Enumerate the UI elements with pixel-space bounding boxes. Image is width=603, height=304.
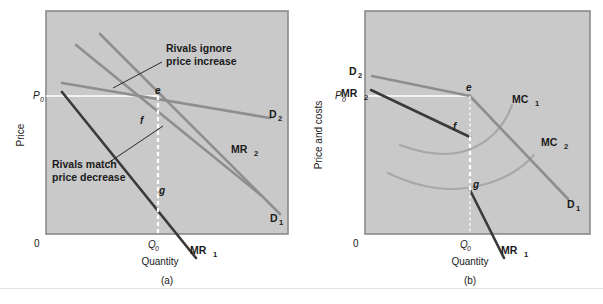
panel-b-label-d2: D 2	[349, 65, 362, 80]
figure-root: Price P 0 0 Q 0 Quantity e f g D 2	[0, 0, 603, 304]
panel-b-label-d1-base: D	[567, 198, 575, 210]
panel-a-caption: (a)	[161, 275, 173, 286]
panel-a-label-d1-base: D	[270, 212, 278, 224]
panel-a-y-tick-sub: 0	[40, 96, 44, 103]
panel-b-label-mr1-base: MR	[501, 244, 518, 256]
panel-b-label-mc2-base: MC	[541, 136, 558, 148]
panel-b-label-d2-sub: 2	[358, 71, 362, 80]
panel-a-label-d2-sub: 2	[278, 114, 282, 123]
bottom-divider	[0, 288, 603, 289]
panel-b-label-mc1-sub: 1	[535, 99, 539, 108]
panel-b-label-mr2-sub: 2	[364, 93, 368, 102]
panel-b-label-d1-sub: 1	[576, 204, 580, 213]
panel-b-point-g: g	[472, 179, 479, 190]
panel-a-x-tick-q0: Q 0	[148, 239, 159, 252]
panel-a-annot-ignore-line2: price increase	[166, 55, 237, 67]
panel-a-label-mr1-base: MR	[190, 244, 207, 256]
panel-b-label-mc1-base: MC	[512, 93, 529, 105]
panel-a-label-mr2-base: MR	[231, 143, 248, 155]
panel-b-label-mc2-sub: 2	[564, 142, 568, 151]
figure-svg: Price P 0 0 Q 0 Quantity e f g D 2	[0, 0, 603, 304]
panel-a-label-mr1-sub: 1	[213, 250, 217, 259]
panel-a-y-axis-label: Price	[15, 123, 26, 146]
panel-a-label-d2-base: D	[269, 108, 277, 120]
panel-a-label-mr2-sub: 2	[254, 149, 258, 158]
panel-b-point-e: e	[466, 82, 472, 93]
panel-a-annotation-rivals-match: Rivals match price decrease	[52, 158, 126, 183]
panel-a-x-axis-label: Quantity	[141, 256, 178, 267]
panel-a: Price P 0 0 Q 0 Quantity e f g D 2	[15, 11, 288, 286]
panel-b-label-mr1: MR 1	[501, 244, 528, 259]
panel-a-point-e: e	[155, 85, 161, 96]
panel-a-label-d1-sub: 1	[279, 218, 283, 227]
panel-b-x-axis-label: Quantity	[451, 256, 488, 267]
panel-b-caption: (b)	[464, 275, 476, 286]
panel-a-annot-ignore-line1: Rivals ignore	[166, 42, 232, 54]
panel-a-annot-match-line1: Rivals match	[52, 158, 117, 170]
panel-a-point-g: g	[158, 185, 165, 196]
panel-b-label-mr2-base: MR	[341, 87, 358, 99]
panel-a-x-tick-sub: 0	[155, 245, 159, 252]
panel-b-label-mr1-sub: 1	[524, 250, 528, 259]
panel-b-x-tick-q0: Q 0	[460, 239, 471, 252]
panel-a-origin-label: 0	[34, 238, 40, 249]
panel-a-y-tick-label: P	[33, 90, 40, 101]
panel-b: Price and costs P 0 0 Q 0 Quantity e f g…	[313, 11, 590, 286]
panel-a-y-tick-p0: P 0	[33, 90, 44, 103]
panel-b-label-d2-base: D	[349, 65, 357, 77]
panel-b-plot-area	[365, 11, 590, 234]
panel-b-x-tick-sub: 0	[467, 245, 471, 252]
panel-a-annot-match-line2: price decrease	[52, 171, 126, 183]
panel-b-y-axis-label: Price and costs	[313, 101, 324, 169]
panel-a-annotation-rivals-ignore: Rivals ignore price increase	[166, 42, 237, 67]
panel-b-origin-label: 0	[353, 238, 359, 249]
